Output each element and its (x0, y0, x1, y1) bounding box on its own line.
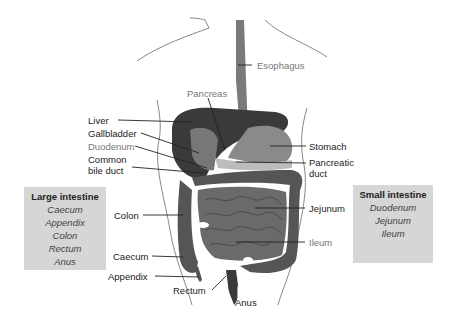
label-esophagus: Esophagus (257, 60, 305, 71)
small-intestine-item: Jejunum (353, 214, 433, 227)
label-rectum: Rectum (173, 285, 206, 296)
anatomy-illustration (0, 0, 456, 323)
label-pancreatic-duct-line1: Pancreatic (309, 157, 354, 168)
large-intestine-box: Large intestine Caecum Appendix Colon Re… (24, 187, 106, 270)
label-pancreas: Pancreas (187, 88, 227, 99)
label-anus: Anus (235, 297, 257, 308)
label-colon: Colon (114, 210, 139, 221)
label-caecum: Caecum (113, 251, 148, 262)
large-intestine-title: Large intestine (31, 191, 99, 202)
label-common-bile-duct-line2: bile duct (88, 165, 123, 176)
label-pancreatic-duct-line2: duct (309, 168, 327, 179)
label-gallbladder: Gallbladder (88, 128, 137, 139)
label-appendix: Appendix (108, 271, 148, 282)
large-intestine-item: Rectum (24, 242, 106, 255)
label-jejunum: Jejunum (309, 203, 345, 214)
label-common-bile-duct-line1: Common (88, 154, 127, 165)
small-intestine-item: Duodenum (353, 201, 433, 214)
digestive-system-diagram: Esophagus Pancreas Liver Gallbladder Duo… (0, 0, 456, 323)
small-intestine-item: Ileum (353, 227, 433, 240)
large-intestine-item: Appendix (24, 216, 106, 229)
small-intestine-title: Small intestine (359, 189, 426, 200)
small-intestine-box: Small intestine Duodenum Jejunum Ileum (353, 185, 433, 263)
large-intestine-item: Colon (24, 229, 106, 242)
label-ileum: Ileum (309, 237, 332, 248)
large-intestine-item: Caecum (24, 203, 106, 216)
appendix-shape (195, 266, 202, 282)
label-duodenum: Duodenum (88, 141, 134, 152)
large-intestine-item: Anus (24, 255, 106, 268)
label-liver: Liver (88, 115, 109, 126)
label-stomach: Stomach (309, 141, 347, 152)
